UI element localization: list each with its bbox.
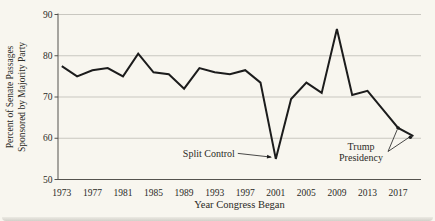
- x-tick-label-2009: 2009: [327, 188, 346, 198]
- annotation-split-control-label: Split Control: [183, 148, 235, 159]
- annotation-trump-dot-2017: [396, 126, 400, 130]
- chart-card: 5060708090197319771981198519891993199720…: [0, 0, 435, 221]
- x-tick-label-2001: 2001: [266, 188, 285, 198]
- annotation-trump-label-line1: Trump: [348, 141, 375, 152]
- x-tick-label-1989: 1989: [175, 188, 194, 198]
- y-tick-label-50: 50: [43, 175, 53, 185]
- x-tick-label-1993: 1993: [205, 188, 224, 198]
- annotation-split-control-leader: [238, 153, 271, 157]
- annotation-trump-dot-2019: [409, 135, 413, 139]
- y-tick-label-90: 90: [43, 10, 53, 20]
- annotation-split-control-arrowhead: [267, 155, 272, 159]
- senate-passages-line-chart: 5060708090197319771981198519891993199720…: [0, 0, 435, 221]
- x-tick-label-2017: 2017: [389, 188, 408, 198]
- x-axis-title: Year Congress Began: [194, 199, 285, 210]
- x-tick-label-1977: 1977: [83, 188, 102, 198]
- x-tick-label-1981: 1981: [113, 188, 132, 198]
- majority-party-line: [62, 29, 414, 159]
- annotation-trump-label-line2: Presidency: [339, 152, 383, 163]
- x-tick-label-1973: 1973: [52, 188, 71, 198]
- y-tick-label-60: 60: [43, 133, 53, 143]
- x-tick-label-1997: 1997: [236, 188, 255, 198]
- y-tick-label-70: 70: [43, 92, 53, 102]
- y-tick-label-80: 80: [43, 51, 53, 61]
- x-tick-label-2005: 2005: [297, 188, 316, 198]
- x-tick-label-1985: 1985: [144, 188, 163, 198]
- x-tick-label-2013: 2013: [358, 188, 377, 198]
- y-axis-title-line1: Percent of Senate Passages: [5, 45, 15, 148]
- y-axis-title-line2: Sponsored by Majority Party: [17, 42, 27, 152]
